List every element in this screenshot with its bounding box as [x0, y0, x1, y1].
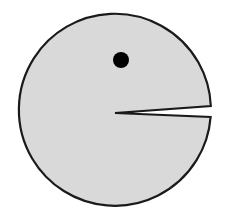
- pacman-diagram: [0, 0, 230, 218]
- pacman-eye: [113, 52, 129, 68]
